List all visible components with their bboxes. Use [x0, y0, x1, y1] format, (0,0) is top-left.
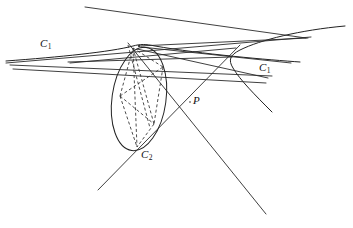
inscribed-quad-side-bottom-left	[120, 96, 137, 147]
line-through-p-descending	[128, 43, 266, 214]
label-c2-sub: 2	[149, 153, 153, 162]
label-c1-right-sub: 1	[267, 66, 271, 75]
label-p: P	[193, 95, 200, 106]
line-through-p-ascending	[98, 45, 240, 190]
secant-line-upper-left	[85, 7, 306, 38]
conics-diagram: C1 C1 C2 P	[0, 0, 353, 228]
inscribed-quad-diagonal-4	[120, 96, 154, 124]
point-c1-vertex-marker	[138, 45, 140, 47]
diagram-canvas	[0, 0, 353, 228]
inscribed-quad-chord-extra	[128, 45, 150, 128]
label-c1-left: C1	[40, 38, 51, 49]
inscribed-quad-diagonal-2	[120, 67, 163, 96]
point-p-marker	[189, 101, 191, 103]
label-c2-text: C	[141, 148, 148, 160]
label-c1-right-text: C	[259, 61, 266, 73]
label-c2: C2	[141, 149, 152, 160]
label-c1-left-text: C	[40, 37, 47, 49]
label-p-text: P	[193, 94, 200, 106]
label-c1-left-sub: 1	[48, 42, 52, 51]
inscribed-quad-diagonal-1	[133, 48, 137, 147]
inscribed-quad-side-right	[154, 67, 163, 124]
label-c1-right: C1	[259, 62, 270, 73]
